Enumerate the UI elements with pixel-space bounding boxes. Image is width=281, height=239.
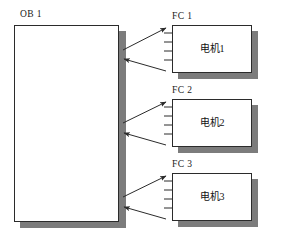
return-arrow-fc2 <box>124 133 166 145</box>
ob-block-shadow-right <box>119 31 126 228</box>
fc2-block-shadow-right <box>252 105 258 153</box>
call-arrow-fc1 <box>123 28 166 50</box>
fc1-block-label: FC 1 <box>172 12 192 22</box>
return-arrow-fc3 <box>124 207 166 219</box>
fc2-block-label: FC 2 <box>172 86 192 96</box>
call-arrow-fc2 <box>123 102 166 123</box>
fc1-block-shadow-bottom <box>178 73 258 79</box>
ob-block-label: OB 1 <box>20 10 42 20</box>
fc3-block-body-text: 电机3 <box>172 192 252 202</box>
ob-block[interactable] <box>14 25 119 222</box>
fc2-block-body-text: 电机2 <box>172 118 252 128</box>
fc1-block-pins <box>164 33 172 60</box>
fc3-block-pins <box>164 181 172 208</box>
fc3-block-shadow-right <box>252 179 258 227</box>
return-arrow-fc1 <box>124 59 166 71</box>
fc3-block-shadow-bottom <box>178 221 258 227</box>
fc2-block-shadow-bottom <box>178 147 258 153</box>
fc2-block-pins <box>164 107 172 134</box>
call-arrow-fc3 <box>123 176 166 197</box>
diagram-canvas: OB 1 FC 1 电机1 FC 2 电机2 FC 3 电机3 <box>0 0 281 239</box>
fc1-block-shadow-right <box>252 31 258 79</box>
ob-block-shadow-bottom <box>20 222 125 228</box>
fc3-block-label: FC 3 <box>172 160 192 170</box>
fc1-block-body-text: 电机1 <box>172 44 252 54</box>
